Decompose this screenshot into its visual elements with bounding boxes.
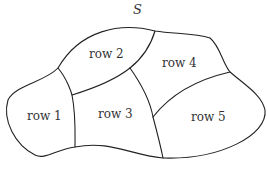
boundary-row1-row3 [58, 68, 75, 147]
boundary-row3-row4 [130, 68, 163, 158]
set-label: S [133, 3, 142, 16]
region-label-row2: row 2 [89, 48, 124, 60]
region-label-row1: row 1 [27, 110, 62, 122]
region-label-row4: row 4 [162, 57, 197, 69]
boundary-row2-row3 [72, 68, 130, 95]
region-label-row5: row 5 [191, 111, 226, 123]
boundary-row2-row4 [130, 31, 155, 68]
partition-shapes [0, 0, 267, 172]
region-label-row3: row 3 [98, 108, 133, 120]
set-partition-diagram: S row 1 row 2 row 3 row 4 row 5 [0, 0, 267, 172]
outer-boundary [7, 28, 266, 158]
